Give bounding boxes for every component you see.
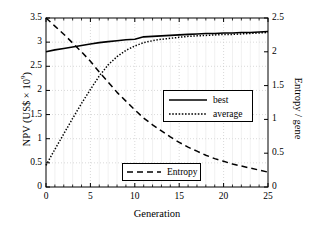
x-tick-label: 25 (253, 191, 283, 201)
x-tick-label: 5 (75, 191, 105, 201)
y-left-tick-label: 0.5 (12, 157, 42, 167)
y-left-tick-label: 1 (12, 133, 42, 143)
legend-item-best: best (168, 93, 248, 107)
legend-item-entropy: Entropy (126, 165, 197, 179)
legend-swatch-dashed (126, 166, 162, 178)
x-tick-label: 15 (164, 191, 194, 201)
y-axis-left-exponent: 9 (19, 76, 27, 80)
legend-label-entropy: Entropy (167, 167, 198, 177)
x-axis-label: Generation (46, 208, 268, 219)
x-tick-label: 10 (120, 191, 150, 201)
legend-series: best average (163, 90, 253, 122)
y-left-tick-label: 2 (12, 84, 42, 94)
y-right-tick-label: 1.5 (272, 80, 302, 90)
legend-label-average: average (213, 109, 243, 119)
y-right-tick-label: 2.5 (272, 12, 302, 22)
x-tick-label: 0 (31, 191, 61, 201)
y-left-tick-label: 3.5 (12, 12, 42, 22)
y-right-tick-label: 0 (272, 181, 302, 191)
x-tick-label: 20 (209, 191, 239, 201)
y-axis-right-label: Entropy / gene (293, 39, 304, 179)
y-right-tick-label: 1 (272, 113, 302, 123)
legend-swatch-solid (168, 94, 208, 106)
y-left-tick-label: 1.5 (12, 109, 42, 119)
y-left-tick-label: 3 (12, 36, 42, 46)
y-left-tick-label: 0 (12, 181, 42, 191)
y-right-tick-label: 2 (272, 46, 302, 56)
y-left-tick-label: 2.5 (12, 60, 42, 70)
legend-entropy: Entropy (122, 163, 201, 181)
y-right-tick-label: 0.5 (272, 147, 302, 157)
chart-figure: NPV (US$ × 109) Entropy / gene Generatio… (0, 0, 317, 228)
legend-label-best: best (213, 95, 228, 105)
legend-item-average: average (168, 107, 248, 121)
legend-swatch-dotted (168, 108, 208, 120)
